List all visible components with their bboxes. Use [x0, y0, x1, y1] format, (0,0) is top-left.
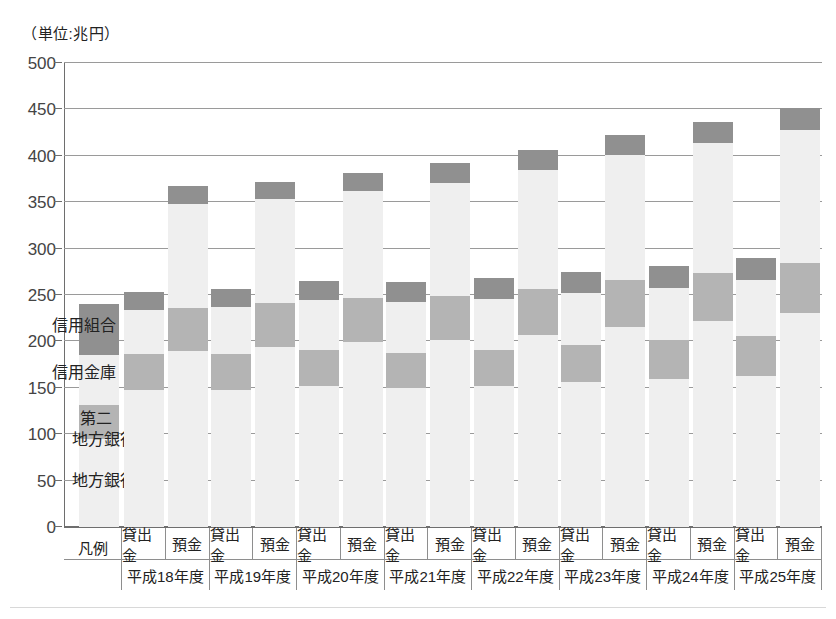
- segment-信用組合: [518, 150, 558, 169]
- segment-信用金庫: [386, 302, 426, 353]
- stacked-bar: [299, 281, 339, 527]
- y-tick-50: [54, 480, 62, 481]
- legend-label-shinyo-kumiai: 信用組合: [52, 318, 116, 335]
- x-axis-label-預金: 預金: [691, 528, 734, 559]
- segment-信用金庫: [124, 310, 164, 355]
- segment-信用金庫: [518, 170, 558, 290]
- x-axis-subcategory-row: 貸出金預金: [735, 528, 822, 560]
- bar-平成23年度-貸出金: [561, 63, 601, 527]
- y-tick-0: [54, 526, 62, 527]
- segment-地方銀行: [649, 379, 689, 527]
- y-tick-300: [54, 248, 62, 249]
- segment-信用組合: [255, 182, 295, 199]
- bar-平成22年度-預金: [518, 63, 558, 527]
- bar-平成24年度-貸出金: [649, 63, 689, 527]
- segment-地方銀行: [211, 390, 251, 527]
- segment-第二地方銀行: [430, 296, 470, 341]
- segment-信用組合: [168, 186, 208, 204]
- segment-地方銀行: [255, 347, 295, 527]
- x-axis-subcategory-row: 貸出金預金: [560, 528, 647, 560]
- y-tick-250: [54, 294, 62, 295]
- x-axis-subcategory-row: 貸出金預金: [472, 528, 559, 560]
- x-axis-year-label: 平成24年度: [647, 560, 734, 590]
- segment-第二地方銀行: [255, 303, 295, 347]
- x-axis-subcategory-row: 貸出金預金: [647, 528, 734, 560]
- x-axis-legend-label: 凡例: [78, 537, 108, 558]
- segment-地方銀行: [693, 321, 733, 527]
- bar-平成20年度-貸出金: [299, 63, 339, 527]
- segment-信用金庫: [168, 204, 208, 308]
- stacked-bar: [561, 272, 601, 527]
- bar-平成25年度-預金: [780, 63, 820, 527]
- segment-信用組合: [780, 108, 820, 129]
- x-axis-label-預金: 預金: [516, 528, 559, 559]
- segment-地方銀行: [168, 351, 208, 527]
- segment-地方銀行: [605, 327, 645, 527]
- x-axis-label-貸出金: 貸出金: [647, 528, 691, 559]
- x-axis-year-label: 平成22年度: [472, 560, 559, 590]
- x-axis-year-group-平成20年度: 貸出金預金平成20年度: [297, 528, 385, 590]
- x-axis-label-預金: 預金: [603, 528, 646, 559]
- segment-第二地方銀行: [124, 354, 164, 389]
- segment-信用金庫: [299, 300, 339, 350]
- x-axis-label-貸出金: 貸出金: [122, 528, 166, 559]
- segment-地方銀行: [343, 342, 383, 527]
- y-tick-400: [54, 155, 62, 156]
- bar-平成22年度-貸出金: [474, 63, 514, 527]
- x-axis-label-貸出金: 貸出金: [297, 528, 341, 559]
- segment-信用組合: [299, 281, 339, 300]
- segment-信用金庫: [343, 191, 383, 298]
- segment-信用金庫: [211, 307, 251, 354]
- stacked-bar: [386, 282, 426, 527]
- stacked-bar: [168, 186, 208, 527]
- x-axis-label-貸出金: 貸出金: [210, 528, 254, 559]
- stacked-bar: [518, 150, 558, 527]
- stacked-bar: [430, 163, 470, 527]
- footer-rule: [10, 607, 826, 608]
- segment-信用金庫: [430, 183, 470, 296]
- y-tick-500: [54, 62, 62, 63]
- segment-地方銀行: [736, 376, 776, 527]
- y-axis-label-400: 400: [28, 147, 56, 164]
- stacked-bar: [255, 182, 295, 527]
- stacked-bar: [693, 122, 733, 527]
- y-axis-label-250: 250: [28, 287, 56, 304]
- x-axis-label-預金: 預金: [428, 528, 471, 559]
- y-axis-label-0: 0: [47, 519, 56, 536]
- segment-信用金庫: [561, 293, 601, 345]
- y-axis-label-500: 500: [28, 55, 56, 72]
- x-axis-subcategory-row: 貸出金預金: [385, 528, 472, 560]
- x-axis-year-label: 平成18年度: [122, 560, 209, 590]
- y-axis-label-100: 100: [28, 426, 56, 443]
- stacked-bar: [605, 135, 645, 528]
- x-axis-year-group-平成22年度: 貸出金預金平成22年度: [472, 528, 560, 590]
- bar-平成25年度-貸出金: [736, 63, 776, 527]
- x-axis-label-貸出金: 貸出金: [472, 528, 516, 559]
- segment-第二地方銀行: [343, 298, 383, 343]
- legend-sample-bar: [79, 63, 119, 527]
- x-axis-subcategory-row: 貸出金預金: [122, 528, 209, 560]
- bar-平成18年度-貸出金: [124, 63, 164, 527]
- x-axis-year-label: 平成23年度: [560, 560, 647, 590]
- segment-信用組合: [386, 282, 426, 301]
- stacked-bar: [474, 278, 514, 527]
- x-axis-label-預金: 預金: [253, 528, 296, 559]
- segment-信用組合: [430, 163, 470, 182]
- segment-信用組合: [211, 289, 251, 308]
- x-axis-year-label: 平成25年度: [735, 560, 822, 590]
- segment-第二地方銀行: [299, 350, 339, 386]
- x-axis-year-label: 平成21年度: [385, 560, 472, 590]
- segment-第二地方銀行: [474, 350, 514, 386]
- y-axis-label-450: 450: [28, 101, 56, 118]
- segment-信用組合: [605, 135, 645, 155]
- chart-plot-area: 信用組合信用金庫第二地方銀行地方銀行: [64, 63, 822, 527]
- y-axis-label-200: 200: [28, 333, 56, 350]
- bar-平成19年度-貸出金: [211, 63, 251, 527]
- segment-信用金庫: [649, 288, 689, 341]
- segment-信用組合: [474, 278, 514, 298]
- segment-第二地方銀行: [736, 336, 776, 376]
- bar-平成23年度-預金: [605, 63, 645, 527]
- stacked-bar: [211, 289, 251, 527]
- segment-第二地方銀行: [168, 308, 208, 351]
- stacked-bar: [780, 108, 820, 527]
